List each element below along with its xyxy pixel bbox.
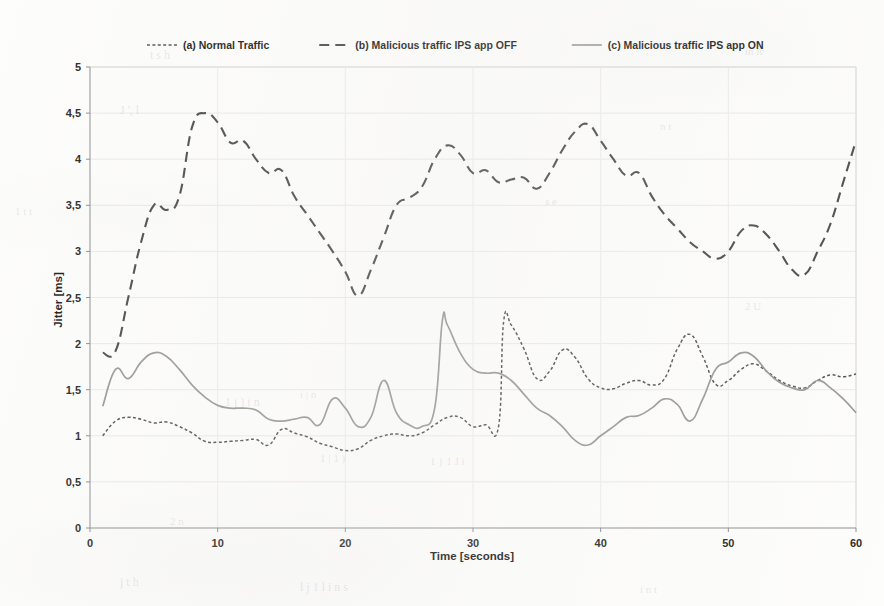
x-tick-label: 40 (595, 537, 607, 549)
x-tick-label: 50 (722, 537, 734, 549)
series-line-c (103, 312, 856, 445)
data-series-group (103, 113, 856, 451)
series-line-b (103, 113, 856, 357)
x-tick-label: 10 (212, 537, 224, 549)
y-tick-label: 1 (75, 430, 81, 442)
series-line-a (103, 311, 856, 451)
legend-label: (b) Malicious traffic IPS app OFF (355, 39, 517, 51)
y-axis-title: Jitter [ms] (52, 272, 64, 328)
jitter-line-chart: 00,511,522,533,544,55 0102030405060 (a) … (0, 0, 884, 606)
x-tick-label: 30 (467, 537, 479, 549)
y-tick-label: 5 (75, 61, 81, 73)
figure-canvas: 00,511,522,533,544,55 0102030405060 (a) … (0, 0, 884, 606)
y-tick-label: 2,5 (66, 292, 81, 304)
legend-item-c[interactable]: (c) Malicious traffic IPS app ON (572, 39, 764, 51)
x-tick-label: 60 (850, 537, 862, 549)
legend-label: (c) Malicious traffic IPS app ON (608, 39, 764, 51)
x-axis-title: Time [seconds] (430, 550, 514, 562)
y-tick-label: 3 (75, 245, 81, 257)
legend-item-a[interactable]: (a) Normal Traffic (147, 39, 270, 51)
y-tick-label: 0,5 (66, 476, 81, 488)
chart-legend: (a) Normal Traffic(b) Malicious traffic … (147, 39, 764, 51)
y-tick-label: 1,5 (66, 384, 81, 396)
y-axis-ticks: 00,511,522,533,544,55 (66, 61, 90, 534)
x-axis-ticks: 0102030405060 (87, 528, 862, 549)
legend-item-b[interactable]: (b) Malicious traffic IPS app OFF (319, 39, 517, 51)
y-tick-label: 0 (75, 522, 81, 534)
y-tick-label: 3,5 (66, 199, 81, 211)
y-tick-label: 4 (75, 153, 82, 165)
y-tick-label: 4,5 (66, 107, 81, 119)
legend-label: (a) Normal Traffic (183, 39, 270, 51)
x-tick-label: 0 (87, 537, 93, 549)
x-tick-label: 20 (339, 537, 351, 549)
y-tick-label: 2 (75, 338, 81, 350)
